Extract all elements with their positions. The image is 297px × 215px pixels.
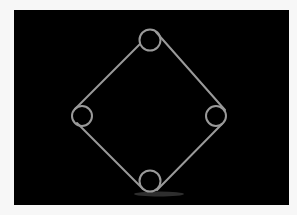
wire-segments	[75, 32, 225, 190]
loop-top	[140, 30, 161, 51]
wire-segment-top-right	[156, 32, 225, 110]
wire-segment-bottom-right	[157, 124, 222, 190]
loop-left	[72, 106, 92, 126]
loop-right	[206, 106, 226, 126]
figure-stage	[0, 0, 297, 215]
diamond-wire-loop-diagram	[0, 0, 297, 215]
corner-loops	[72, 30, 226, 192]
wire-segment-top-left	[75, 44, 140, 109]
loop-bottom	[140, 171, 161, 192]
shadow-ellipse	[134, 192, 184, 197]
wire-segment-bottom-left	[77, 123, 143, 189]
ground-shadow	[134, 192, 184, 197]
